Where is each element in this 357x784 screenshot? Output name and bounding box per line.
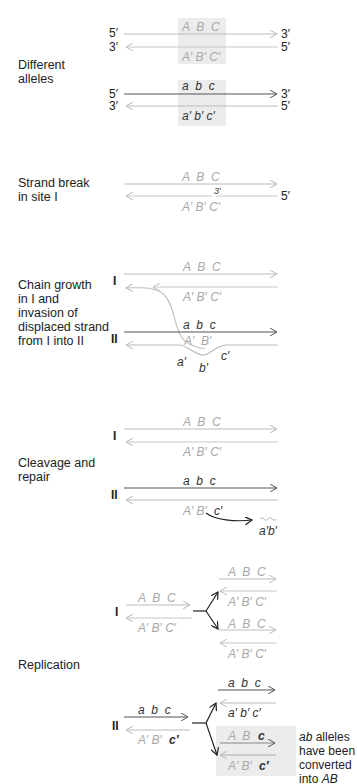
genes-ABC: A B C: [183, 260, 221, 274]
label-cleavage-repair: Cleavage and repair: [18, 456, 95, 484]
end-5prime: 5′: [281, 189, 290, 203]
genes-ABC-prime: A′ B′ C′: [183, 445, 221, 459]
genes-AB: A B: [228, 729, 250, 743]
end-5prime: 5′: [281, 40, 290, 54]
genes-abc-prime: a′ b′ c′: [228, 706, 261, 720]
loop-b-prime: b′: [199, 361, 208, 375]
genes-ABC-prime: A′ B′ C′: [228, 595, 266, 609]
genes-AB-prime: A′ B′: [183, 504, 207, 518]
gene-c: c: [258, 729, 265, 743]
gene-c-prime: c′: [259, 759, 269, 773]
genes-ABC-prime: A′ B′ C′: [228, 647, 266, 661]
genes-ABC: A B C: [138, 591, 176, 605]
site-I-marker: I: [113, 274, 116, 288]
site-I-marker: I: [113, 429, 116, 443]
label-chain-growth: Chain growth in I and invasion of displa…: [18, 278, 109, 348]
genes-ABC-prime: A′ B′ C′: [183, 290, 221, 304]
genes-abc: a b c: [182, 79, 215, 93]
genes-ABC: A B C: [183, 415, 221, 429]
genes-abc-prime: a′ b′ c′: [182, 109, 215, 123]
break-3prime-end: 3′: [214, 186, 221, 196]
end-3prime: 3′: [281, 27, 290, 41]
end-3prime: 3′: [109, 99, 118, 113]
genes-ABC: A B C: [182, 20, 220, 34]
site-I-marker: I: [115, 605, 118, 619]
label-strand-break: Strand break in site I: [18, 176, 90, 204]
site-II-marker: II: [112, 719, 119, 733]
label-replication: Replication: [18, 658, 80, 672]
genes-abc: a b c: [183, 474, 216, 488]
end-5prime: 5′: [281, 99, 290, 113]
invaded-genes-AB-prime: A′ B′: [184, 334, 211, 348]
end-3prime: 3′: [109, 40, 118, 54]
end-5prime: 5′: [109, 26, 118, 40]
genes-abc: a b c: [183, 318, 216, 332]
genes-abc: a b c: [138, 703, 171, 717]
genes-AB-prime: A′ B′: [138, 733, 162, 747]
genes-abc: a b c: [228, 676, 261, 690]
gene-c-prime: c′: [214, 504, 222, 518]
label-different-alleles: Different alleles: [18, 58, 65, 86]
conversion-note: ab alleles have been converted into AB: [299, 730, 355, 784]
genes-ABC: A B C: [182, 170, 220, 184]
genes-ABC: A B C: [228, 565, 266, 579]
site-II-marker: II: [111, 488, 118, 502]
genes-ABC-prime: A′ B′ C′: [182, 50, 220, 64]
loop-a-prime: a′: [177, 355, 186, 369]
loop-c-prime: c′: [221, 349, 229, 363]
excised-ab-prime: a′b′: [259, 524, 277, 538]
genes-ABC-prime: A′ B′ C′: [182, 200, 220, 214]
genes-ABC: A B C: [228, 617, 266, 631]
genes-ABC-prime: A′ B′ C′: [138, 621, 176, 635]
genes-AB-prime: A′ B′: [228, 759, 252, 773]
gene-c-prime: c′: [169, 733, 179, 747]
site-II-marker: II: [111, 332, 118, 346]
